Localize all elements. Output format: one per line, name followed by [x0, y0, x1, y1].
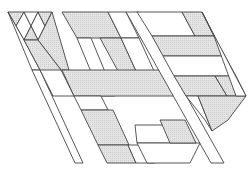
diagram-canvas	[0, 0, 251, 174]
tiling-cell-M-cross-band	[62, 70, 174, 96]
tiling-cell-M-lower-left	[74, 96, 108, 110]
tiling-cell-M-lower-shaded	[81, 110, 129, 145]
tiling-cell-R-lower-shaded	[198, 96, 246, 131]
tiling-cells	[8, 12, 246, 163]
tiling-cell-R-row2-shaded	[152, 36, 225, 56]
tiling-cell-B-bottom	[137, 143, 200, 163]
parallelogram-tiling-diagram	[0, 0, 251, 174]
